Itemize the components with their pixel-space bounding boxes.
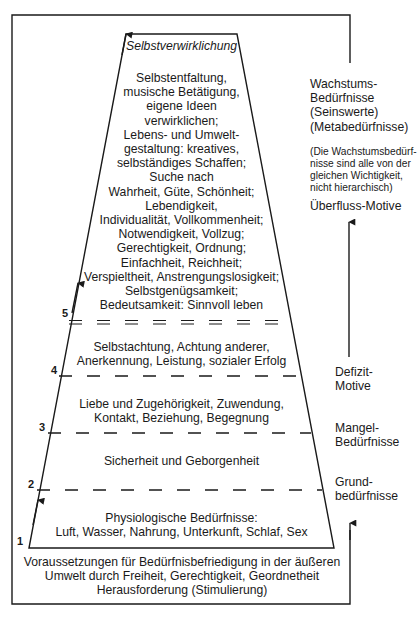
level-5-text: Selbstentfaltung, musische Betätigung, e…	[60, 71, 303, 312]
level-3-line: Kontakt, Beziehung, Begegnung	[40, 411, 323, 425]
level-5-line: Individualität, Vollkommenheit;	[60, 213, 303, 227]
level-4-text: Selbstachtung, Achtung anderer, Anerkenn…	[40, 340, 323, 368]
level-5-line: Wahrheit, Güte, Schönheit;	[60, 185, 303, 199]
level-5-line: Selbstgenügsamkeit;	[60, 284, 303, 298]
apex-label: Selbstverwirklichung	[126, 39, 237, 53]
level-1-line: Luft, Wasser, Nahrung, Unterkunft, Schla…	[30, 525, 333, 539]
deficit-line: Defizit-	[335, 365, 373, 379]
level-5-line: eigene Ideen	[60, 99, 303, 113]
growth-line: (Metabedürfnisse)	[310, 120, 408, 134]
level-number-2: 2	[28, 478, 34, 490]
deficit-motives-label: Defizit- Motive	[335, 365, 373, 393]
growth-needs-note: (Die Wachstumsbedürf- nisse sind alle vo…	[310, 146, 417, 194]
level-5-line: Verspieltheit, Anstrengungslosigkeit;	[60, 270, 303, 284]
growth-line: Bedürfnisse	[310, 91, 408, 105]
lack-line: Mangel-	[335, 421, 399, 435]
level-number-1: 1	[17, 535, 23, 547]
base-line: Voraussetzungen für Bedürfnisbefriedigun…	[14, 555, 350, 569]
growth-line: Wachstums-	[310, 77, 408, 91]
level-5-line: Suche nach	[60, 170, 303, 184]
level-number-4: 4	[51, 364, 57, 376]
level-1-text: Physiologische Bedürfnisse: Luft, Wasser…	[30, 511, 333, 539]
level-5-line: Lebens- und Umwelt-	[60, 128, 303, 142]
surplus-motives-label: Überfluss-Motive	[310, 199, 401, 213]
basic-line: bedürfnisse	[335, 489, 398, 503]
level-2-line: Sicherheit und Geborgenheit	[40, 454, 323, 468]
base-preconditions-text: Voraussetzungen für Bedürfnisbefriedigun…	[14, 555, 350, 598]
level-number-5: 5	[62, 307, 68, 319]
level-5-line: Gerechtigkeit, Ordnung;	[60, 241, 303, 255]
level-1-line: Physiologische Bedürfnisse:	[30, 511, 333, 525]
lack-needs-label: Mangel- Bedürfnisse	[335, 421, 399, 449]
level-5-line: selbständiges Schaffen;	[60, 156, 303, 170]
level-number-3: 3	[39, 421, 45, 433]
level-3-line: Liebe und Zugehörigkeit, Zuwendung,	[40, 397, 323, 411]
level-5-line: Notwendigkeit, Vollzug;	[60, 227, 303, 241]
base-line: Herausforderung (Stimulierung)	[14, 583, 350, 597]
level-5-line: gestaltung: kreatives,	[60, 142, 303, 156]
level-5-line: Lebendigkeit,	[60, 199, 303, 213]
level-2-text: Sicherheit und Geborgenheit	[40, 454, 323, 468]
lack-line: Bedürfnisse	[335, 435, 399, 449]
level-4-line: Selbstachtung, Achtung anderer,	[40, 340, 323, 354]
level-5-line: Selbstentfaltung,	[60, 71, 303, 85]
deficit-line: Motive	[335, 379, 373, 393]
level-5-line: musische Betätigung,	[60, 85, 303, 99]
growth-needs-label: Wachstums- Bedürfnisse (Seinswerte) (Met…	[310, 77, 408, 134]
note-line: nicht hierarchisch)	[310, 182, 417, 194]
growth-line: (Seinswerte)	[310, 105, 408, 119]
basic-needs-label: Grund- bedürfnisse	[335, 475, 398, 503]
note-line: (Die Wachstumsbedürf-	[310, 146, 417, 158]
base-line: Umwelt durch Freiheit, Gerechtigkeit, Ge…	[14, 569, 350, 583]
level-3-text: Liebe und Zugehörigkeit, Zuwendung, Kont…	[40, 397, 323, 425]
note-line: gleichen Wichtigkeit,	[310, 170, 417, 182]
level-4-line: Anerkennung, Leistung, sozialer Erfolg	[40, 354, 323, 368]
level-5-line: Bedeutsamkeit: Sinnvoll leben	[60, 298, 303, 312]
basic-line: Grund-	[335, 475, 398, 489]
level-5-line: Einfachheit, Reichheit;	[60, 256, 303, 270]
note-line: nisse sind alle von der	[310, 158, 417, 170]
level-5-line: verwirklichen;	[60, 114, 303, 128]
